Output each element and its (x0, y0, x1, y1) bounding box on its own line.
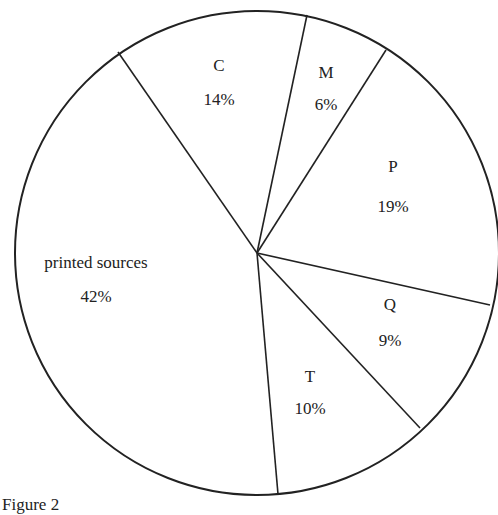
slice-name-label: P (388, 157, 397, 176)
slice-name-label: M (318, 63, 333, 82)
slice-value-label: 10% (294, 399, 325, 418)
slice-name-label: C (213, 56, 224, 75)
slice-value-label: 9% (379, 331, 402, 350)
slice-name-label: T (305, 367, 316, 386)
slice-name-label: Q (384, 295, 396, 314)
slice-value-label: 14% (203, 90, 234, 109)
slice-value-label: 42% (80, 287, 111, 306)
figure-caption: Figure 2 (2, 495, 59, 515)
slice-value-label: 6% (315, 95, 338, 114)
slice-value-label: 19% (377, 197, 408, 216)
slice-name-label: printed sources (44, 253, 147, 272)
